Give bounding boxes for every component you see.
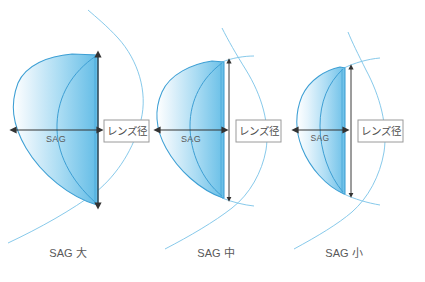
diameter-label-small: レンズ径 — [361, 125, 402, 137]
caption-medium: SAG 中 — [197, 247, 234, 259]
sag-label-small: SAG — [310, 133, 329, 143]
figure-canvas: SAG レンズ径 SAG 大 SAG レンズ径 SAG — [0, 0, 425, 282]
panel-small: SAG レンズ径 SAG 小 — [294, 32, 403, 259]
tangent-whisker-bottom-medium — [222, 198, 254, 206]
diameter-label-large: レンズ径 — [107, 125, 148, 137]
panel-medium: SAG レンズ径 SAG 中 — [157, 28, 281, 259]
sag-label-medium: SAG — [181, 134, 201, 144]
tangent-whisker-top-small — [344, 58, 380, 68]
sag-label-large: SAG — [46, 134, 66, 144]
caption-small: SAG 小 — [325, 247, 362, 259]
diameter-label-medium: レンズ径 — [239, 125, 280, 137]
tangent-whisker-bottom-small — [344, 194, 380, 205]
lens-sag-diagram: SAG レンズ径 SAG 大 SAG レンズ径 SAG — [0, 0, 425, 282]
panel-large: SAG レンズ径 SAG 大 — [8, 10, 149, 259]
caption-large: SAG 大 — [49, 246, 86, 259]
